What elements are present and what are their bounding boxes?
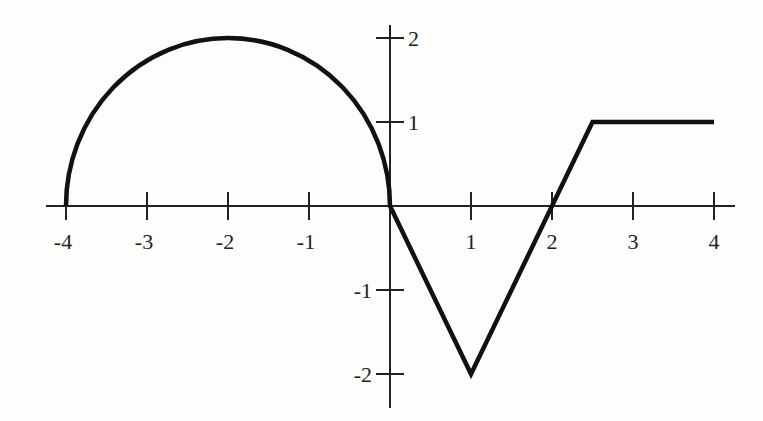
function-graph: -4-3-2-11234 21-1-2 (0, 0, 763, 421)
x-tick-label: -4 (54, 229, 72, 254)
y-tick-label: 2 (408, 26, 419, 51)
x-tick-label: 3 (628, 229, 639, 254)
x-tick-label: 2 (547, 229, 558, 254)
x-tick-label: -3 (135, 229, 153, 254)
x-tick-label: 1 (466, 229, 477, 254)
x-tick-label: 4 (709, 229, 720, 254)
x-tick-label: -1 (297, 229, 315, 254)
x-tick-label: -2 (216, 229, 234, 254)
y-tick-label: -2 (354, 362, 372, 387)
y-tick-label: 1 (408, 110, 419, 135)
y-axis: 21-1-2 (354, 25, 419, 408)
y-tick-label: -1 (354, 278, 372, 303)
